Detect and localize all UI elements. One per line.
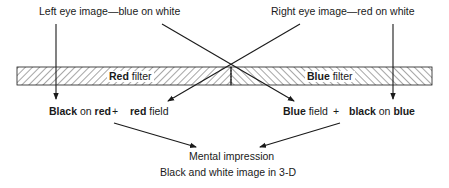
right-result-plus: +	[333, 106, 339, 117]
right-result-black: black	[349, 105, 376, 117]
blue-filter-label: Blue filter	[305, 71, 355, 82]
left-result-field-word: field	[146, 105, 168, 117]
right-result-on: on	[376, 105, 394, 117]
red-filter-label: Red filter	[107, 71, 154, 82]
red-filter-label-rest: filter	[129, 70, 152, 82]
left-result-red: red	[95, 105, 111, 117]
right-result-field: Blue field	[283, 106, 328, 117]
left-result-field: red field	[130, 106, 169, 117]
mental-impression-label: Mental impression	[189, 151, 274, 162]
right-eye-label: Right eye image—red on white	[271, 6, 415, 17]
right-result-blue-end: blue	[393, 105, 415, 117]
right-result-label: black on blue	[349, 106, 415, 117]
right-result-blue: Blue	[283, 105, 306, 117]
left-result-arrow	[114, 123, 196, 147]
red-filter-label-bold: Red	[109, 70, 129, 82]
left-eye-label: Left eye image—blue on white	[39, 6, 180, 17]
blue-filter-label-rest: filter	[330, 70, 353, 82]
right-result-arrow	[260, 123, 340, 147]
filter-bar	[17, 67, 432, 85]
left-result-label: Black on red	[49, 106, 111, 117]
left-result-on: on	[77, 105, 95, 117]
left-result-plus: +	[112, 106, 118, 117]
blue-filter-label-bold: Blue	[307, 70, 330, 82]
left-eye-diagonal-arrow	[162, 24, 294, 101]
right-result-field-word: field	[306, 105, 328, 117]
right-eye-diagonal-arrow	[168, 24, 300, 101]
outcome-description: Black and white image in 3-D	[160, 167, 296, 178]
left-result-field-red: red	[130, 105, 146, 117]
left-result-black: Black	[49, 105, 77, 117]
